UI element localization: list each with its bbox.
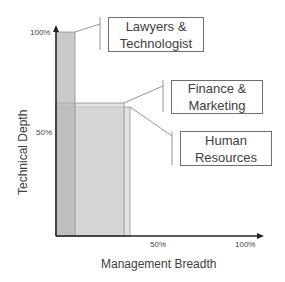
x-axis-arrow-icon <box>257 233 264 239</box>
connector-finance <box>124 86 163 103</box>
callout-finance-line2: Marketing <box>188 97 247 114</box>
y-axis-title: Technical Depth <box>16 110 30 195</box>
connector-hr <box>130 107 172 136</box>
y-tick-100: 100% <box>30 28 50 37</box>
callout-lawyers-line2: Technologist <box>120 35 192 52</box>
y-tick-50: 50% <box>36 128 52 137</box>
bar-lawyers-technologist <box>56 32 75 236</box>
x-tick-50: 50% <box>150 240 166 249</box>
callout-lawyers-technologist: Lawyers & Technologist <box>108 17 204 52</box>
connector-lawyers <box>75 24 100 32</box>
y-axis-arrow-icon <box>53 25 59 32</box>
callout-finance-marketing: Finance & Marketing <box>171 80 263 114</box>
callout-hr-line2: Resources <box>195 149 257 166</box>
x-axis-title: Management Breadth <box>101 257 216 271</box>
x-tick-100: 100% <box>235 240 255 249</box>
callout-lawyers-line1: Lawyers & <box>120 18 192 35</box>
callout-hr-line1: Human <box>195 132 257 149</box>
callout-human-resources: Human Resources <box>180 131 272 166</box>
callout-finance-line1: Finance & <box>188 80 247 97</box>
